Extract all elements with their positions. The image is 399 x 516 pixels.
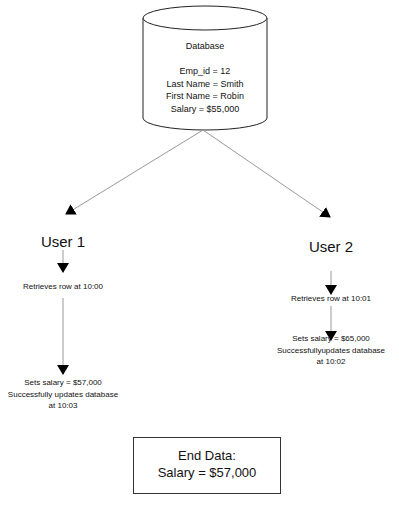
user2-label: User 2 bbox=[291, 238, 371, 255]
end-data-value: Salary = $57,000 bbox=[134, 464, 280, 481]
end-data-title: End Data: bbox=[134, 447, 280, 464]
user1-step2-line1: Sets salary = $57,000 bbox=[3, 377, 123, 389]
user2-step2-line1: Sets salary = $65,000 bbox=[271, 333, 391, 345]
database-title: Database bbox=[143, 41, 267, 51]
field-first-name: First Name = Robin bbox=[143, 90, 267, 103]
user1-step2: Sets salary = $57,000 Successfully updat… bbox=[3, 377, 123, 412]
field-last-name: Last Name = Smith bbox=[143, 78, 267, 91]
user2-step1: Retrieves row at 10:01 bbox=[271, 293, 391, 305]
user2-step2-line3: at 10:02 bbox=[271, 356, 391, 368]
user1-step2-line2: Successfully updates database bbox=[3, 389, 123, 401]
user2-step2-line2: Successfullyupdates database bbox=[271, 345, 391, 357]
field-emp-id: Emp_id = 12 bbox=[143, 65, 267, 78]
user2-step2: Sets salary = $65,000 Successfullyupdate… bbox=[271, 333, 391, 368]
database-fields: Emp_id = 12 Last Name = Smith First Name… bbox=[143, 65, 267, 115]
user1-step2-line3: at 10:03 bbox=[3, 400, 123, 412]
end-data-box: End Data: Salary = $57,000 bbox=[133, 437, 281, 494]
user1-label: User 1 bbox=[23, 233, 103, 250]
user1-step1: Retrieves row at 10:00 bbox=[3, 281, 123, 293]
field-salary: Salary = $55,000 bbox=[143, 103, 267, 116]
